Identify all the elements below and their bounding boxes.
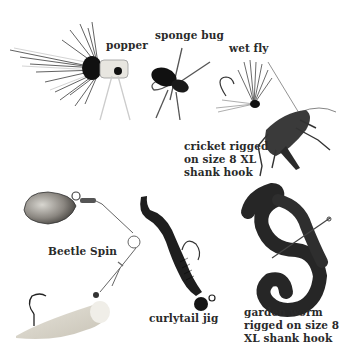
- label-curlytail-jig: curlytail jig: [149, 312, 218, 325]
- label-sponge-bug: sponge bug: [155, 29, 224, 42]
- curlytail-jig-illustration: [140, 196, 215, 311]
- label-beetle-spin: Beetle Spin: [48, 245, 117, 258]
- label-popper: popper: [106, 39, 148, 52]
- lure-figure: popper sponge bug wet fly cricket rigged…: [0, 0, 352, 362]
- beetle-spin-illustration: [16, 192, 140, 339]
- sponge-bug-illustration: [149, 48, 210, 120]
- cricket-illustration: [258, 62, 336, 176]
- label-garden-worm: garden worm rigged on size 8 XL shank ho…: [244, 306, 339, 345]
- garden-worm-illustration: [248, 190, 331, 310]
- wet-fly-illustration: [216, 60, 272, 112]
- label-wet-fly: wet fly: [229, 42, 269, 55]
- label-cricket: cricket rigged on size 8 XL shank hook: [184, 140, 268, 179]
- popper-illustration: [10, 22, 130, 120]
